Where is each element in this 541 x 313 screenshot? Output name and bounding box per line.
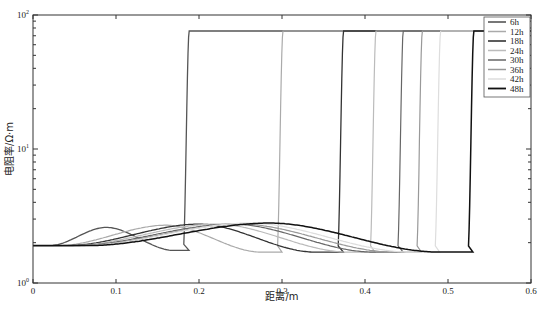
legend-label: 48h xyxy=(510,84,524,94)
x-tick-label: 0.5 xyxy=(442,286,454,296)
legend-label: 6h xyxy=(510,17,520,27)
x-tick-label: 0.4 xyxy=(359,286,371,296)
x-tick-label: 0.1 xyxy=(110,286,121,296)
x-tick-label: 0.2 xyxy=(193,286,204,296)
x-axis-ticks: 00.10.20.30.40.50.6 xyxy=(31,15,537,296)
x-tick-label: 0.6 xyxy=(525,286,537,296)
y-axis-label: 电阻率/Ω·m xyxy=(3,122,15,176)
y-tick-label: 100 xyxy=(17,277,29,288)
legend-label: 30h xyxy=(510,55,524,65)
y-tick-label: 101 xyxy=(17,143,29,154)
x-axis-label: 距离/m xyxy=(265,290,298,302)
legend-label: 24h xyxy=(510,46,524,56)
legend: 6h12h18h24h30h36h42h48h xyxy=(484,17,530,97)
legend-label: 12h xyxy=(510,27,524,37)
x-tick-label: 0 xyxy=(31,286,36,296)
series-line-12h xyxy=(33,31,531,252)
legend-label: 42h xyxy=(510,74,524,84)
data-series-group xyxy=(33,31,531,252)
legend-label: 36h xyxy=(510,65,524,75)
y-tick-label: 102 xyxy=(17,9,29,20)
resistivity-chart: 00.10.20.30.40.50.6 100101102 距离/m 电阻率/Ω… xyxy=(0,0,541,313)
legend-label: 18h xyxy=(510,36,524,46)
